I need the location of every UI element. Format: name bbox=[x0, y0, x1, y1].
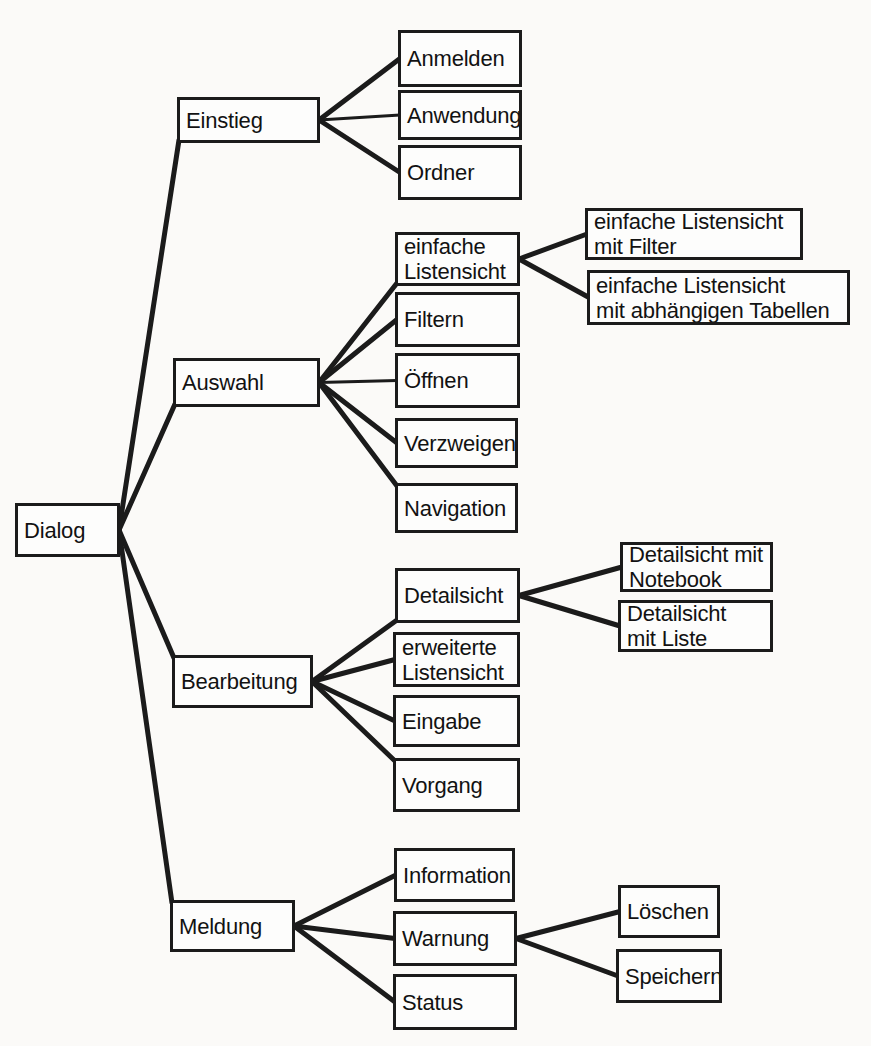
node-verzweigen: Verzweigen bbox=[395, 418, 518, 468]
node-listensicht-mit-abhaengigen-tabellen: einfache Listensicht mit abhängigen Tabe… bbox=[587, 270, 850, 325]
node-anwendung: Anwendung bbox=[398, 90, 522, 140]
node-filtern: Filtern bbox=[395, 292, 520, 347]
edge-auswahl-oeffnen bbox=[319, 381, 397, 383]
node-detailsicht-mit-liste: Detailsicht mit Liste bbox=[618, 600, 773, 652]
node-einstieg: Einstieg bbox=[177, 97, 320, 143]
node-detailsicht: Detailsicht bbox=[395, 568, 520, 623]
node-loeschen: Löschen bbox=[618, 885, 720, 938]
node-bearbeitung: Bearbeitung bbox=[172, 655, 313, 708]
node-information: Information bbox=[394, 848, 515, 902]
edge-bearbeitung-vorgang bbox=[312, 682, 395, 762]
edge-dialog-einstieg bbox=[119, 140, 179, 530]
edge-einstieg-anwendung bbox=[319, 115, 400, 120]
node-speichern: Speichern bbox=[616, 949, 722, 1003]
edge-detailsicht-detailsicht-mit-notebook bbox=[519, 567, 622, 596]
node-dialog: Dialog bbox=[15, 503, 120, 557]
node-warnung: Warnung bbox=[393, 911, 517, 966]
dialog-hierarchy-diagram: DialogEinstiegAnmeldenAnwendungOrdnerAus… bbox=[0, 0, 871, 1046]
edge-warnung-speichern bbox=[516, 939, 618, 977]
edge-einfache-listensicht-listensicht-mit-abhaengigen-tabellen bbox=[519, 259, 589, 298]
edge-auswahl-einfache-listensicht bbox=[319, 283, 397, 383]
node-vorgang: Vorgang bbox=[393, 758, 520, 812]
edge-einstieg-anmelden bbox=[319, 59, 400, 121]
node-eingabe: Eingabe bbox=[393, 695, 520, 747]
node-navigation: Navigation bbox=[395, 483, 518, 533]
edge-meldung-information bbox=[294, 875, 396, 926]
node-erweiterte-listensicht: erweiterte Listensicht bbox=[393, 632, 520, 687]
edge-bearbeitung-eingabe bbox=[312, 682, 395, 722]
node-anmelden: Anmelden bbox=[398, 30, 522, 87]
node-oeffnen: Öffnen bbox=[395, 353, 520, 408]
node-detailsicht-mit-notebook: Detailsicht mit Notebook bbox=[620, 542, 773, 592]
node-listensicht-mit-filter: einfache Listensicht mit Filter bbox=[585, 208, 803, 260]
node-ordner: Ordner bbox=[398, 145, 522, 200]
edge-warnung-loeschen bbox=[516, 912, 620, 939]
edge-detailsicht-detailsicht-mit-liste bbox=[519, 596, 620, 627]
edge-einstieg-ordner bbox=[319, 120, 400, 173]
node-auswahl: Auswahl bbox=[173, 358, 320, 407]
edge-einfache-listensicht-listensicht-mit-filter bbox=[519, 234, 587, 259]
node-meldung: Meldung bbox=[170, 900, 295, 952]
node-einfache-listensicht: einfache Listensicht bbox=[395, 232, 520, 286]
node-status: Status bbox=[393, 974, 517, 1030]
